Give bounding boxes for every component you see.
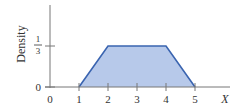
y-tick-label-third-num: 1: [36, 34, 41, 44]
y-axis-label: Density: [14, 25, 28, 62]
density-chart: 0 1 3 Density 0 1 2 3 4 5 X: [0, 0, 238, 112]
x-tick-label-0: 0: [47, 93, 53, 105]
x-tick-label-2: 2: [105, 93, 111, 105]
density-area: [79, 46, 195, 87]
x-tick-label-3: 3: [134, 93, 140, 105]
y-tick-label-third-den: 3: [36, 46, 41, 56]
y-tick-label-0: 0: [36, 81, 42, 93]
x-tick-label-4: 4: [163, 93, 169, 105]
x-tick-label-5: 5: [192, 93, 198, 105]
x-tick-label-1: 1: [76, 93, 82, 105]
x-axis-label: X: [220, 92, 229, 106]
